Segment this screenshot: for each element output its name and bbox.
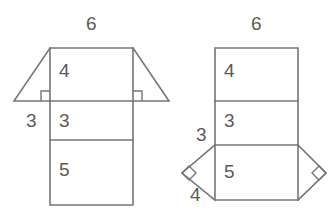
left-trapezoid-left-triangle bbox=[14, 48, 50, 101]
left-trapezoid-right-triangle bbox=[133, 48, 169, 101]
left-label-middle-band: 3 bbox=[59, 111, 70, 130]
left-right-angle-marker-outer bbox=[133, 91, 142, 101]
right-label-triangle-top: 3 bbox=[196, 125, 207, 144]
left-label-top-width: 6 bbox=[86, 14, 97, 33]
geometry-figures-svg bbox=[0, 0, 329, 221]
left-label-lower-band: 5 bbox=[59, 160, 70, 179]
diagram-canvas: 6 4 3 5 3 6 4 3 5 3 4 bbox=[0, 0, 329, 221]
right-label-triangle-bottom: 4 bbox=[190, 185, 201, 204]
left-label-upper-band: 4 bbox=[59, 61, 70, 80]
right-label-top-width: 6 bbox=[251, 14, 262, 33]
left-right-angle-marker-inner bbox=[41, 91, 50, 101]
left-label-base-length: 3 bbox=[26, 111, 37, 130]
right-label-middle-band: 3 bbox=[224, 111, 235, 130]
right-label-lower-band: 5 bbox=[224, 162, 235, 181]
right-right-triangle-angle-marker bbox=[312, 166, 326, 180]
left-figure-group bbox=[14, 48, 169, 205]
right-label-upper-band: 4 bbox=[224, 61, 235, 80]
